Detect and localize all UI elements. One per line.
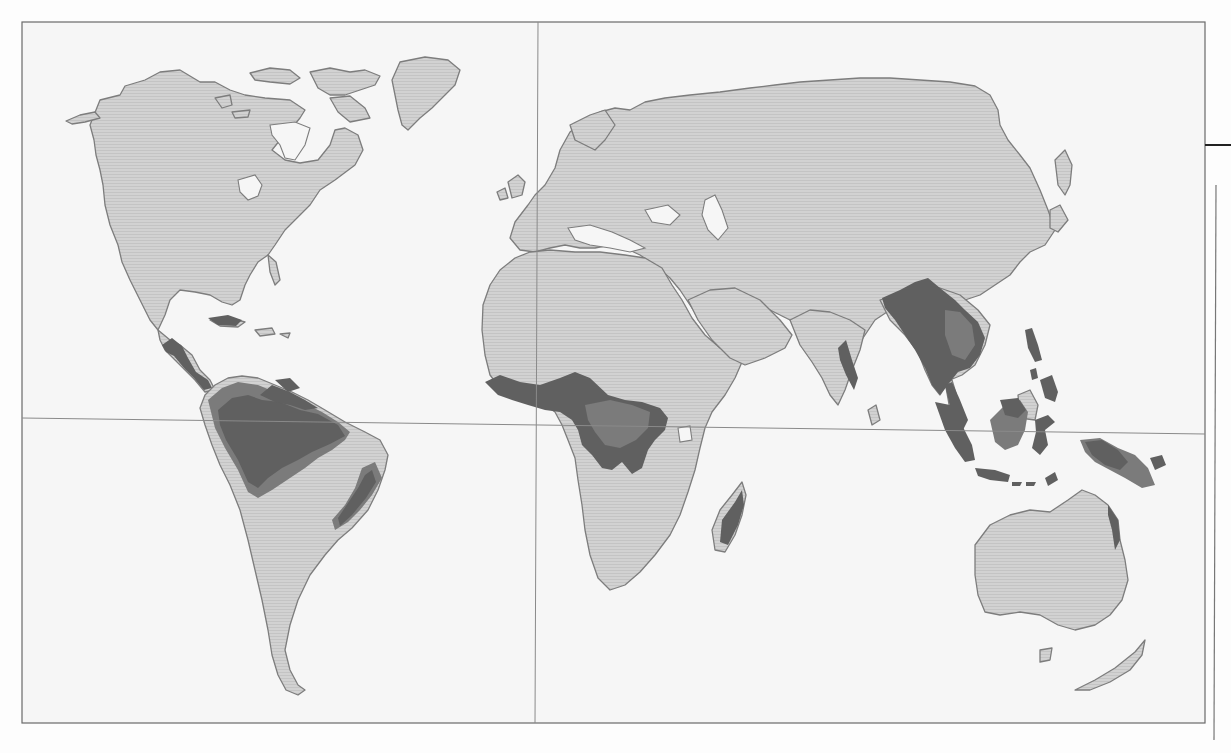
world-map bbox=[0, 0, 1231, 753]
page-rule-vertical bbox=[1214, 185, 1216, 740]
map-svg bbox=[0, 0, 1231, 753]
